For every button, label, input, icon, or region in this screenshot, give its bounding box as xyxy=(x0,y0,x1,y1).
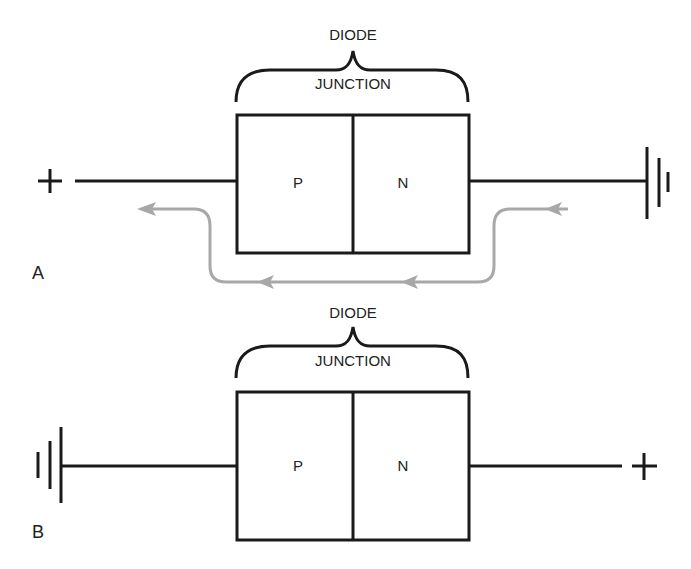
panel-label-b: B xyxy=(32,522,44,542)
p-region-label-a: P xyxy=(293,174,303,191)
panel-a: DIODE JUNCTION P N A xyxy=(32,26,668,289)
diode-label-a: DIODE xyxy=(329,26,377,43)
p-region-label-b: P xyxy=(293,457,303,474)
plus-terminal-icon-b xyxy=(632,453,657,480)
diode-label-b: DIODE xyxy=(329,304,377,321)
panel-b: DIODE JUNCTION P N B xyxy=(32,304,657,542)
plus-terminal-icon-a xyxy=(38,169,62,193)
ground-icon-b xyxy=(38,427,61,503)
junction-label-a: JUNCTION xyxy=(315,75,391,92)
diode-junction-diagram: DIODE JUNCTION P N A DIODE xyxy=(0,0,691,569)
panel-label-a: A xyxy=(32,263,44,283)
n-region-label-b: N xyxy=(398,457,409,474)
junction-label-b: JUNCTION xyxy=(315,352,391,369)
n-region-label-a: N xyxy=(398,174,409,191)
ground-icon-a xyxy=(647,147,668,219)
current-flow-path-a xyxy=(142,209,568,282)
